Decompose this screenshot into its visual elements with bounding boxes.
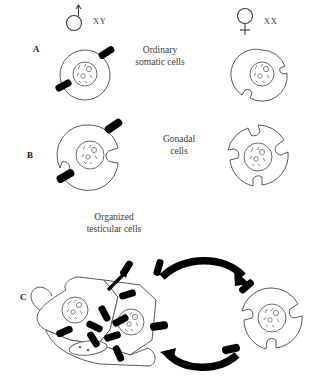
organized-testicular-cell-cluster <box>31 258 168 366</box>
panel-label-a: A <box>33 44 40 54</box>
figure-canvas: XY XX A B C Ordinary somatic cells Gonad… <box>0 0 318 391</box>
arrow-dissociation <box>162 261 250 286</box>
male-karyotype-label: XY <box>93 16 106 26</box>
female-somatic-cell <box>231 49 287 101</box>
panel-label-b: B <box>27 150 33 160</box>
female-karyotype-label: XX <box>264 16 277 26</box>
chromosome-bar <box>97 45 115 60</box>
group-label-testicular-line2: testicular cells <box>66 223 162 235</box>
group-label-somatic: Ordinary somatic cells <box>124 44 196 68</box>
female-symbol <box>238 9 253 36</box>
group-label-gonadal-line1: Gonadal <box>146 133 212 145</box>
panel-label-c: C <box>20 292 27 302</box>
chromosome-bar <box>103 117 123 134</box>
dissociated-testicular-cell <box>221 278 302 355</box>
group-label-gonadal-line2: cells <box>146 145 212 157</box>
group-label-somatic-line1: Ordinary <box>124 44 196 56</box>
chromosome-bar-group <box>221 278 255 355</box>
group-label-somatic-line2: somatic cells <box>124 56 196 68</box>
group-label-testicular: Organized testicular cells <box>66 211 162 235</box>
female-gonadal-cell <box>228 125 288 186</box>
male-somatic-cell <box>54 45 115 100</box>
male-symbol <box>67 5 82 31</box>
male-gonadal-cell <box>55 117 123 190</box>
group-label-testicular-line1: Organized <box>66 211 162 223</box>
group-label-gonadal: Gonadal cells <box>146 133 212 157</box>
